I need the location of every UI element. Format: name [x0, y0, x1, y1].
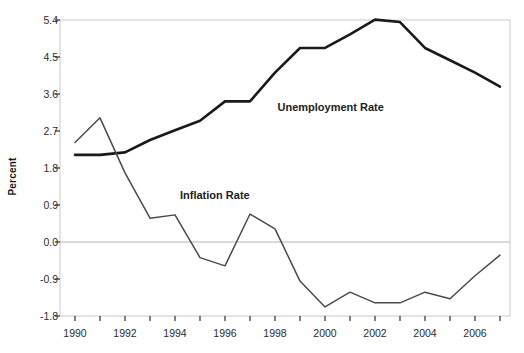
- x-tick-label: 2000: [313, 327, 336, 339]
- x-tick-label: 1996: [213, 327, 236, 339]
- x-tick-label: 1998: [263, 327, 286, 339]
- x-tick-label: 1994: [163, 327, 186, 339]
- series-label-2: Inflation Rate: [180, 189, 250, 201]
- x-tick-label: 2002: [363, 327, 386, 339]
- chart-container: Percent -1.8-0.90.00.91.82.73.64.55.4 19…: [0, 0, 524, 353]
- series-label-1: Unemployment Rate: [278, 101, 384, 113]
- x-tick-label: 1990: [63, 327, 86, 339]
- x-tick-label: 1992: [113, 327, 136, 339]
- x-tick-label: 2006: [463, 327, 486, 339]
- series-line-1: [75, 20, 500, 155]
- x-tick-label: 2004: [413, 327, 436, 339]
- plot-area: [0, 0, 524, 353]
